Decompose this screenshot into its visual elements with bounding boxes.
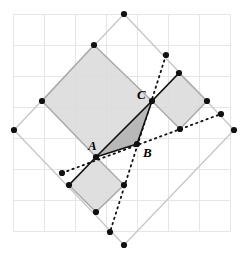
label-A: A: [87, 138, 97, 153]
dot-outer-left: [11, 127, 17, 133]
dot-dotted-end-lower: [107, 229, 113, 235]
dot-left-square-bottom: [93, 209, 99, 215]
dot-outer-top: [121, 11, 127, 17]
dot-right-square-bottom: [177, 126, 183, 132]
dot-dotted-end-upper: [163, 52, 169, 58]
dot-dotted-end-right: [218, 111, 224, 117]
dot-left-square-right: [121, 182, 127, 188]
label-C: C: [137, 87, 146, 102]
dot-outer-bottom: [121, 242, 127, 248]
dot-vertex-C: [149, 98, 155, 104]
dot-vertex-B: [134, 141, 140, 147]
label-B: B: [142, 145, 152, 160]
dot-big-square-left: [39, 98, 45, 104]
dot-outer-right: [231, 127, 237, 133]
dot-right-square-right: [204, 98, 210, 104]
dot-left-square-left: [66, 182, 72, 188]
dot-right-square-top: [176, 70, 182, 76]
geometry-figure: A B C: [0, 0, 249, 260]
dot-big-square-top: [91, 42, 97, 48]
dot-vertex-A: [93, 154, 99, 160]
dot-dotted-end-left: [59, 170, 65, 176]
